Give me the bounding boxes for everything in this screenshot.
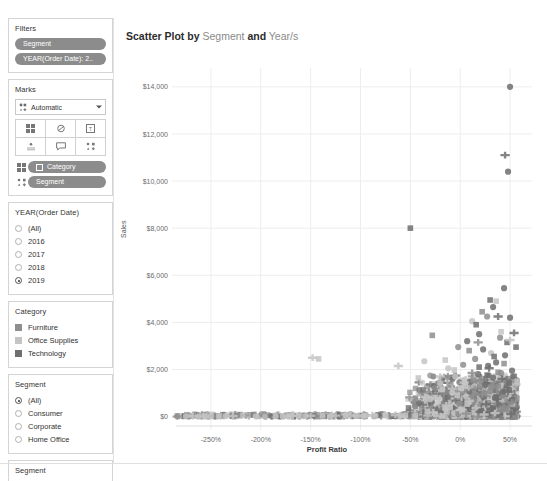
data-point[interactable] xyxy=(497,335,503,341)
data-point[interactable] xyxy=(487,297,493,303)
data-point[interactable] xyxy=(439,387,445,393)
data-point[interactable] xyxy=(363,413,369,419)
data-point[interactable] xyxy=(420,387,426,393)
data-point[interactable] xyxy=(262,414,268,420)
size-button[interactable] xyxy=(46,120,76,138)
data-point[interactable] xyxy=(455,344,461,350)
data-point[interactable] xyxy=(203,413,209,419)
data-point[interactable] xyxy=(493,313,502,320)
marks-pill-category[interactable]: Category xyxy=(28,161,106,173)
data-point[interactable] xyxy=(454,393,460,399)
segment-option-consumer[interactable]: Consumer xyxy=(15,407,106,420)
radio-button[interactable] xyxy=(15,238,22,245)
data-point[interactable] xyxy=(482,382,488,388)
data-point[interactable] xyxy=(437,380,443,386)
marks-pill-segment[interactable]: Segment xyxy=(28,176,106,188)
data-point[interactable] xyxy=(280,413,286,419)
data-point[interactable] xyxy=(183,413,189,419)
radio-button[interactable] xyxy=(15,397,22,404)
data-point[interactable] xyxy=(498,329,504,335)
year-option-2016[interactable]: 2016 xyxy=(15,235,106,248)
data-point[interactable] xyxy=(253,413,259,419)
data-point[interactable] xyxy=(470,378,476,384)
filter-pill-segment[interactable]: Segment xyxy=(15,38,106,50)
segment-option-homeoffice[interactable]: Home Office xyxy=(15,433,106,446)
data-point[interactable] xyxy=(403,412,409,418)
data-point[interactable] xyxy=(502,352,508,358)
legend-item-office-supplies[interactable]: Office Supplies xyxy=(15,334,106,347)
data-point[interactable] xyxy=(445,395,450,400)
marks-encoding-segment[interactable]: Segment xyxy=(15,176,106,188)
data-point[interactable] xyxy=(507,84,513,90)
segment-option-all[interactable]: (All) xyxy=(15,394,106,407)
radio-button[interactable] xyxy=(15,277,22,284)
data-point[interactable] xyxy=(429,333,435,339)
data-point[interactable] xyxy=(506,380,512,386)
data-point[interactable] xyxy=(216,413,222,419)
color-button[interactable] xyxy=(16,120,46,138)
data-point[interactable] xyxy=(412,399,417,404)
data-point[interactable] xyxy=(412,413,418,419)
scatter-plot-svg[interactable]: $0$2,000$4,000$6,000$8,000$10,000$12,000… xyxy=(114,56,540,463)
mark-type-selector[interactable]: Automatic xyxy=(15,99,106,115)
data-point[interactable] xyxy=(315,414,321,420)
radio-button[interactable] xyxy=(15,264,22,271)
data-point[interactable] xyxy=(174,413,179,418)
chevron-down-icon[interactable] xyxy=(96,106,102,109)
data-point[interactable] xyxy=(240,412,245,417)
data-point[interactable] xyxy=(442,357,448,363)
year-option-2018[interactable]: 2018 xyxy=(15,261,106,274)
data-point[interactable] xyxy=(394,363,403,370)
data-point[interactable] xyxy=(476,331,482,337)
data-point[interactable] xyxy=(416,375,422,381)
radio-button[interactable] xyxy=(15,251,22,258)
data-point[interactable] xyxy=(491,354,497,360)
radio-button[interactable] xyxy=(15,423,22,430)
data-point[interactable] xyxy=(507,315,513,321)
shape-button[interactable] xyxy=(76,138,106,156)
legend-item-furniture[interactable]: Furniture xyxy=(15,321,106,334)
data-point[interactable] xyxy=(505,169,511,175)
data-point[interactable] xyxy=(421,358,427,364)
data-point[interactable] xyxy=(501,285,507,291)
data-point[interactable] xyxy=(435,399,441,405)
data-point[interactable] xyxy=(480,346,486,352)
data-point[interactable] xyxy=(466,348,472,354)
data-point[interactable] xyxy=(501,361,507,367)
radio-button[interactable] xyxy=(15,410,22,417)
data-point[interactable] xyxy=(514,395,519,400)
year-option-all[interactable]: (All) xyxy=(15,222,106,235)
data-point[interactable] xyxy=(500,152,509,159)
data-point[interactable] xyxy=(493,298,499,304)
data-point[interactable] xyxy=(513,344,519,350)
data-point[interactable] xyxy=(464,338,470,344)
data-point[interactable] xyxy=(451,367,457,373)
tooltip-button[interactable] xyxy=(46,138,76,156)
year-option-2019[interactable]: 2019 xyxy=(15,274,106,287)
data-point[interactable] xyxy=(474,339,483,346)
data-point[interactable] xyxy=(320,413,326,419)
year-option-2017[interactable]: 2017 xyxy=(15,248,106,261)
data-point[interactable] xyxy=(495,370,501,376)
data-point[interactable] xyxy=(460,362,466,368)
data-point[interactable] xyxy=(452,373,458,379)
text-button[interactable]: T xyxy=(76,120,106,138)
data-point[interactable] xyxy=(479,309,485,315)
data-point[interactable] xyxy=(490,375,496,381)
data-point[interactable] xyxy=(473,322,479,328)
data-point[interactable] xyxy=(427,373,433,379)
radio-button[interactable] xyxy=(15,436,22,443)
marks-encoding-category[interactable]: Category xyxy=(15,161,106,173)
data-point[interactable] xyxy=(223,413,229,419)
data-point[interactable] xyxy=(456,401,462,407)
data-point[interactable] xyxy=(472,356,478,362)
data-point[interactable] xyxy=(208,413,214,419)
data-point[interactable] xyxy=(408,225,414,231)
data-point[interactable] xyxy=(484,313,490,319)
data-point[interactable] xyxy=(509,368,515,374)
segment-option-corporate[interactable]: Corporate xyxy=(15,420,106,433)
legend-item-technology[interactable]: Technology xyxy=(15,347,106,360)
data-point[interactable] xyxy=(490,304,496,310)
detail-button[interactable] xyxy=(16,138,46,156)
radio-button[interactable] xyxy=(15,225,22,232)
